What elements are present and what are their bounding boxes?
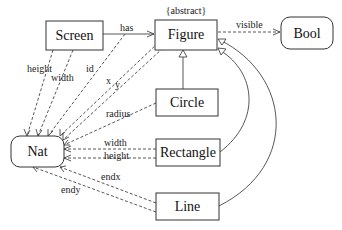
edge-y: y	[63, 48, 163, 140]
edge-screen-height: height	[24, 50, 53, 136]
node-nat[interactable]: Nat	[11, 136, 64, 167]
node-figure-label: Figure	[168, 27, 205, 42]
node-screen[interactable]: Screen	[46, 21, 103, 50]
edge-label-screen-width: width	[51, 72, 74, 83]
edge-label-y: y	[115, 79, 120, 90]
node-circle-label: Circle	[170, 95, 204, 110]
edge-x: x	[60, 43, 158, 136]
node-rectangle-label: Rectangle	[160, 145, 216, 160]
edge-label-endx: endx	[101, 171, 120, 182]
node-line[interactable]: Line	[156, 193, 219, 220]
edge-rect-height: height	[64, 150, 156, 161]
edge-has: has	[103, 22, 154, 37]
edge-label-x: x	[106, 75, 111, 86]
node-nat-label: Nat	[27, 144, 47, 159]
node-line-label: Line	[175, 199, 201, 214]
edge-endy: endy	[33, 166, 156, 212]
edge-circle-generalization	[179, 50, 187, 89]
edge-label-rect-width: width	[104, 137, 127, 148]
node-rectangle[interactable]: Rectangle	[156, 139, 220, 166]
figure-stereotype: {abstract}	[166, 5, 207, 16]
node-bool[interactable]: Bool	[281, 17, 333, 49]
uml-class-diagram: has visible height width id x y	[0, 0, 342, 230]
edge-label-screen-height: height	[27, 63, 52, 74]
node-bool-label: Bool	[293, 26, 320, 41]
node-circle[interactable]: Circle	[156, 89, 218, 116]
edge-visible: visible	[218, 19, 280, 35]
edge-label-visible: visible	[236, 19, 263, 30]
edge-label-id: id	[86, 63, 94, 74]
edge-label-radius: radius	[106, 108, 131, 119]
node-figure[interactable]: {abstract} Figure	[155, 5, 217, 50]
edge-label-has: has	[120, 22, 133, 33]
node-screen-label: Screen	[55, 28, 93, 43]
edge-label-rect-height: height	[104, 150, 129, 161]
edge-line-generalization	[218, 39, 276, 206]
edge-label-endy: endy	[61, 184, 80, 195]
edge-rectangle-generalization	[218, 48, 249, 152]
